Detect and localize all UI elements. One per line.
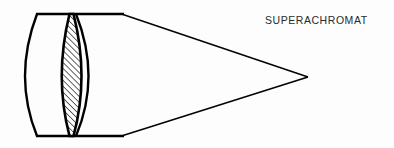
front-convex-surface — [25, 14, 37, 136]
lower-ray-line — [123, 77, 308, 136]
figure-canvas: SUPERACHROMAT — [0, 0, 394, 148]
converging-ray-cone — [123, 15, 308, 136]
figure-label: SUPERACHROMAT — [265, 14, 368, 26]
lens-element-front-positive-meniscus — [25, 14, 37, 136]
